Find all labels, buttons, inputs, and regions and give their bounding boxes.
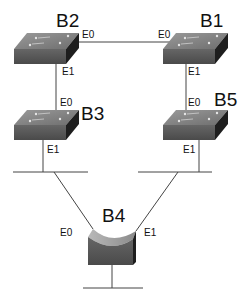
port-label-b1-e1: E1: [188, 66, 201, 77]
port-label-b1-e0: E0: [158, 29, 171, 40]
switch-b3[interactable]: B3 E0 E1: [14, 97, 104, 155]
node-label-b2: B2: [56, 10, 79, 31]
port-label-b3-e1: E1: [47, 144, 60, 155]
node-label-b5: B5: [214, 89, 237, 110]
link-lan-left-b4: [54, 172, 93, 229]
node-label-b1: B1: [200, 10, 223, 31]
bridge-b4[interactable]: B4 E0 E1: [60, 205, 157, 265]
switch-b2[interactable]: B2 E0 E1: [14, 10, 95, 77]
port-label-b5-e1: E1: [183, 144, 196, 155]
node-label-b4: B4: [102, 205, 126, 226]
port-label-b5-e0: E0: [188, 97, 201, 108]
switch-b1[interactable]: B1 E0 E1: [158, 10, 228, 77]
port-label-b4-e1: E1: [144, 227, 157, 238]
port-label-b2-e1: E1: [62, 66, 75, 77]
switch-b5[interactable]: B5 E0 E1: [163, 89, 237, 155]
node-label-b3: B3: [81, 103, 104, 124]
network-diagram: B2 E0 E1 B1 E0 E1 B3 E0 E1: [0, 0, 245, 301]
port-label-b3-e0: E0: [60, 97, 73, 108]
port-label-b2-e0: E0: [82, 29, 95, 40]
port-label-b4-e0: E0: [60, 227, 73, 238]
link-lan-right-b4: [136, 172, 178, 231]
